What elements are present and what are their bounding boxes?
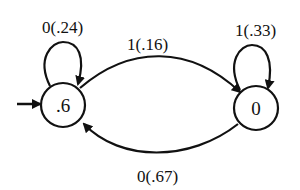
- state-diagram: 0(.24) 1(.16) 1(.33) 0(.67) .6 0: [0, 0, 300, 190]
- arc-s1-s0: [84, 124, 238, 153]
- self-loop-s1: [234, 45, 270, 90]
- state-node-s1: 0: [234, 86, 278, 130]
- arc-s0-s1: [80, 56, 240, 92]
- state-label-s1: 0: [251, 98, 261, 119]
- transition-label-s1-s1: 1(.33): [235, 21, 276, 40]
- transition-label-s1-s0: 0(.67): [137, 167, 178, 186]
- state-node-s0: .6: [41, 83, 85, 127]
- self-loop-s0: [45, 42, 82, 86]
- transition-label-s0-s1: 1(.16): [127, 35, 168, 54]
- transition-label-s0-s0: 0(.24): [42, 18, 83, 37]
- state-label-s0: .6: [56, 95, 70, 116]
